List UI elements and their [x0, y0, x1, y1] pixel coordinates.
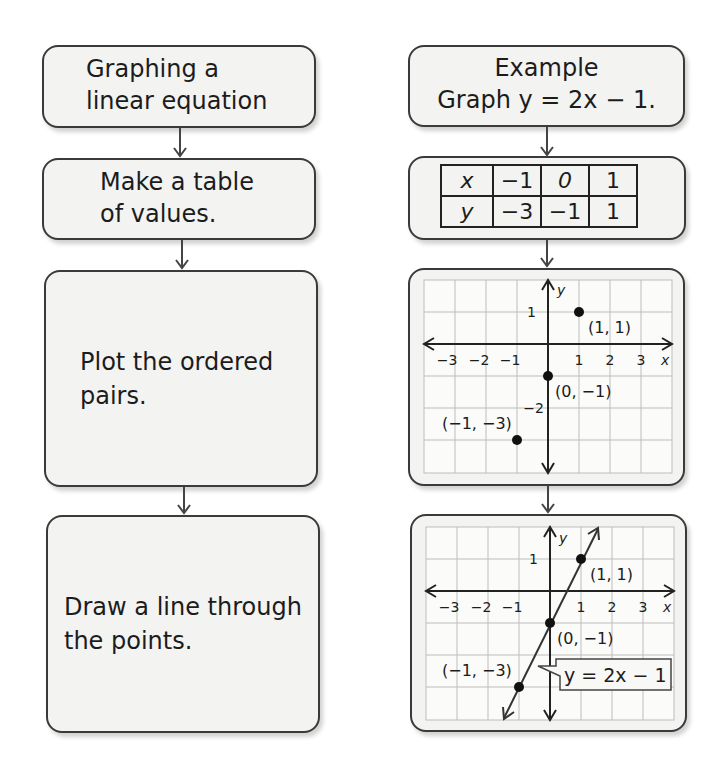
step-box-plot: Plot the ordered pairs.	[44, 270, 318, 487]
y-tick: −2	[523, 400, 544, 416]
table-header-x: x	[441, 165, 493, 196]
y-tick: 1	[527, 304, 536, 320]
x-tick: −2	[468, 352, 489, 368]
scatter-plot: y x −3 −2 −1 1 2 3 1 −2 (1, 1) (0, −1) (…	[408, 268, 685, 486]
x-axis-label: x	[660, 352, 670, 368]
point-label: (1, 1)	[590, 565, 633, 584]
step-line-line2: the points.	[64, 625, 192, 657]
example-box: Example Graph y = 2x − 1.	[408, 45, 685, 127]
step-intro-line2: linear equation	[86, 85, 267, 117]
x-tick: −3	[438, 599, 459, 615]
table-cell: 1	[589, 165, 637, 196]
values-table: x −1 0 1 y −3 −1 1	[440, 164, 638, 228]
equation-label: y = 2x − 1	[564, 664, 667, 686]
table-cell: 0	[541, 165, 589, 196]
table-row-y: y −3 −1 1	[441, 196, 637, 227]
y-tick: 1	[529, 551, 538, 567]
x-axis-label: x	[662, 599, 672, 615]
example-prompt: Graph y = 2x − 1.	[410, 84, 683, 116]
step-table-line1: Make a table	[100, 166, 254, 198]
x-tick: 3	[636, 352, 645, 368]
line-plot: y x −3 −2 −1 1 2 3 1 (1, 1) (0, −1) (−1,…	[410, 514, 687, 732]
x-tick: 1	[576, 599, 585, 615]
x-tick: −1	[501, 599, 522, 615]
data-point	[543, 371, 553, 381]
data-point	[514, 682, 524, 692]
step-box-line: Draw a line through the points.	[46, 515, 320, 733]
data-point	[574, 307, 584, 317]
plot-graph-box: y x −3 −2 −1 1 2 3 1 −2 (1, 1) (0, −1) (…	[408, 268, 685, 486]
x-tick: 1	[574, 352, 583, 368]
arrow-down-icon	[540, 486, 556, 514]
example-title: Example	[410, 52, 683, 84]
x-tick: −3	[436, 352, 457, 368]
table-cell: −1	[541, 196, 589, 227]
arrow-down-icon	[539, 127, 555, 157]
table-cell: −1	[493, 165, 541, 196]
point-label: (−1, −3)	[442, 661, 512, 680]
y-axis-label: y	[558, 530, 568, 546]
step-box-table: Make a table of values.	[42, 158, 316, 240]
step-line-line1: Draw a line through	[64, 591, 302, 623]
x-tick: −1	[499, 352, 520, 368]
arrow-down-icon	[176, 487, 192, 515]
table-cell: 1	[589, 196, 637, 227]
point-label: (−1, −3)	[442, 414, 512, 433]
x-tick: 2	[607, 599, 616, 615]
table-row-x: x −1 0 1	[441, 165, 637, 196]
point-label: (0, −1)	[557, 629, 613, 648]
arrow-down-icon	[174, 240, 190, 270]
x-tick: 3	[638, 599, 647, 615]
point-label: (1, 1)	[588, 318, 631, 337]
step-intro-line1: Graphing a	[86, 53, 219, 85]
point-label: (0, −1)	[555, 382, 611, 401]
x-tick: −2	[470, 599, 491, 615]
data-point	[545, 618, 555, 628]
x-tick: 2	[605, 352, 614, 368]
step-plot-line1: Plot the ordered	[80, 346, 273, 378]
arrow-down-icon	[172, 128, 188, 158]
step-plot-line2: pairs.	[80, 380, 147, 412]
data-point	[576, 554, 586, 564]
table-cell: −3	[493, 196, 541, 227]
step-table-line2: of values.	[100, 198, 216, 230]
table-header-y: y	[441, 196, 493, 227]
arrow-down-icon	[539, 240, 555, 268]
values-table-box: x −1 0 1 y −3 −1 1	[408, 156, 686, 240]
step-box-intro: Graphing a linear equation	[42, 45, 316, 128]
y-axis-label: y	[556, 282, 566, 298]
data-point	[512, 435, 522, 445]
line-graph-box: y x −3 −2 −1 1 2 3 1 (1, 1) (0, −1) (−1,…	[410, 514, 687, 732]
